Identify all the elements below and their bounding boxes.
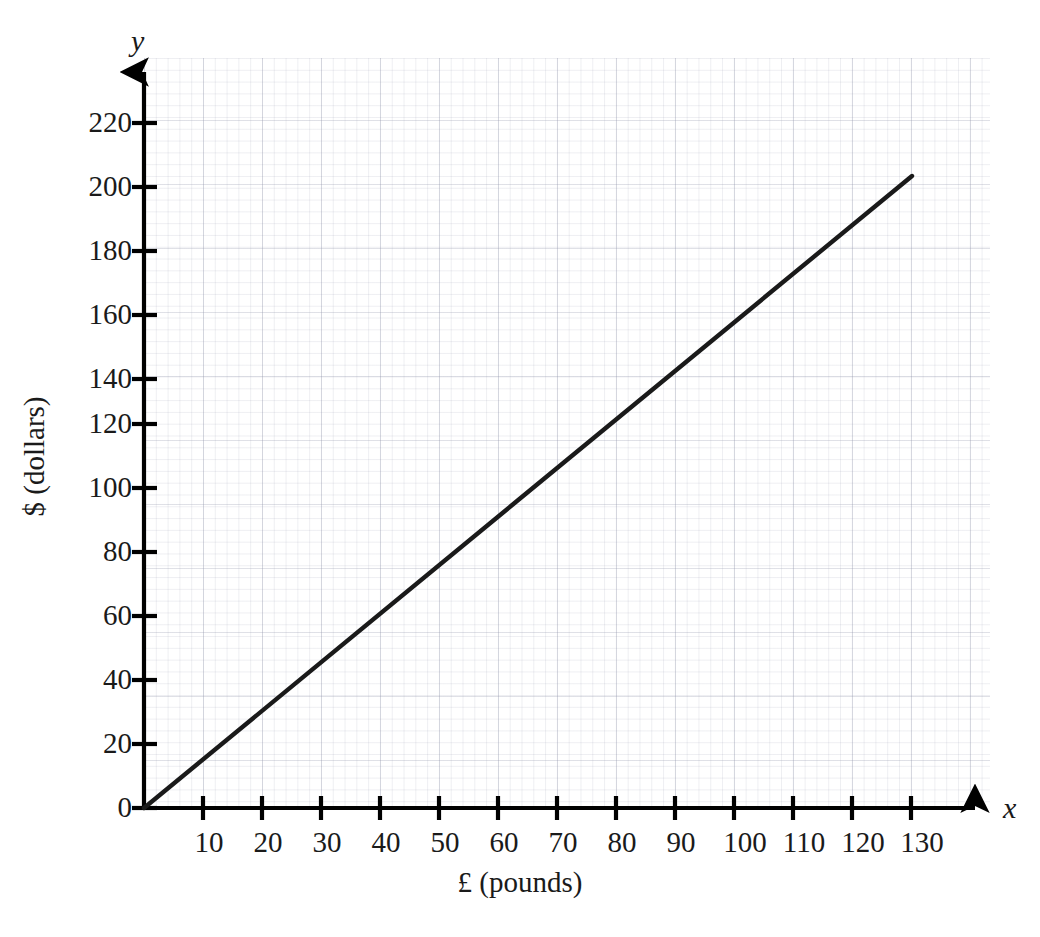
x-tick-label: 130 — [900, 828, 944, 857]
x-tick-label: 60 — [490, 828, 519, 857]
x-tick-label: 40 — [372, 828, 401, 857]
x-tick-label: 30 — [313, 828, 342, 857]
x-tick-label: 120 — [841, 828, 885, 857]
x-axis-title: £ (pounds) — [0, 866, 1040, 899]
x-tick-label: 70 — [549, 828, 578, 857]
y-axis-title: $ (dollars) — [18, 337, 51, 577]
x-tick-label: 50 — [431, 828, 460, 857]
x-tick-label: 100 — [723, 828, 767, 857]
x-tick-label: 110 — [783, 828, 825, 857]
x-tick-label: 20 — [254, 828, 283, 857]
x-tick-label: 80 — [608, 828, 637, 857]
chart-page: 0 20 40 60 80 100 120 140 160 180 200 22… — [0, 0, 1040, 937]
x-tick-label: 10 — [195, 828, 224, 857]
x-tick-label-group: 10 20 30 40 50 60 70 80 90 100 110 120 1… — [0, 0, 1040, 937]
y-axis-variable-label: y — [131, 26, 144, 56]
x-tick-label: 90 — [667, 828, 696, 857]
x-axis-variable-label: x — [1003, 793, 1016, 823]
